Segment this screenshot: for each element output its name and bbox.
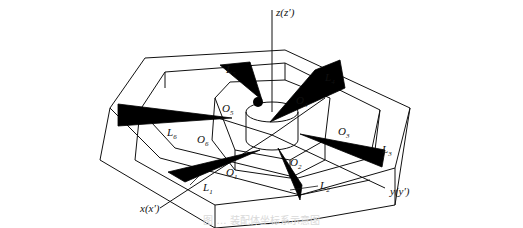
figure-caption: 图 … 装配体坐标系示意图 [0, 212, 523, 227]
label-O6: O6 [197, 133, 209, 148]
labels: z(z′) y(y′) x(x′) O5 O4 O6 O3 O2 O1 L5 L… [139, 6, 410, 215]
blade-6 [118, 104, 232, 126]
blade-1 [168, 150, 260, 182]
svg-text:y(y′): y(y′) [389, 185, 410, 198]
label-L2: L2 [319, 179, 330, 194]
diagram: z(z′) y(y′) x(x′) O5 O4 O6 O3 O2 O1 L5 L… [0, 0, 523, 228]
label-L1: L1 [202, 181, 213, 196]
label-O5: O5 [222, 102, 234, 117]
label-L6: L6 [166, 126, 177, 141]
label-O3: O3 [338, 125, 350, 140]
label-O1: O1 [226, 166, 237, 181]
svg-text:z(z′): z(z′) [275, 6, 295, 19]
blade-4 [270, 60, 345, 122]
hub-marker [253, 97, 263, 107]
blade-3 [300, 134, 385, 167]
